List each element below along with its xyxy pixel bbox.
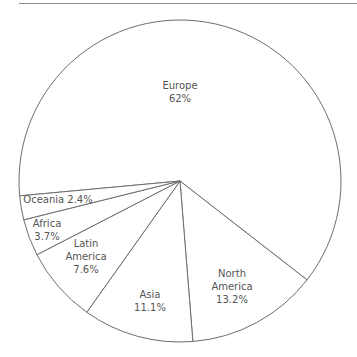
label-north-america: North America 13.2% xyxy=(211,267,252,306)
pie-chart xyxy=(0,0,357,357)
label-latin-america: Latin America 7.6% xyxy=(65,237,106,276)
label-oceania: Oceania 2.4% xyxy=(23,193,92,206)
label-europe: Europe 62% xyxy=(162,79,197,105)
label-asia: Asia 11.1% xyxy=(134,288,166,314)
label-africa: Africa 3.7% xyxy=(33,217,62,243)
